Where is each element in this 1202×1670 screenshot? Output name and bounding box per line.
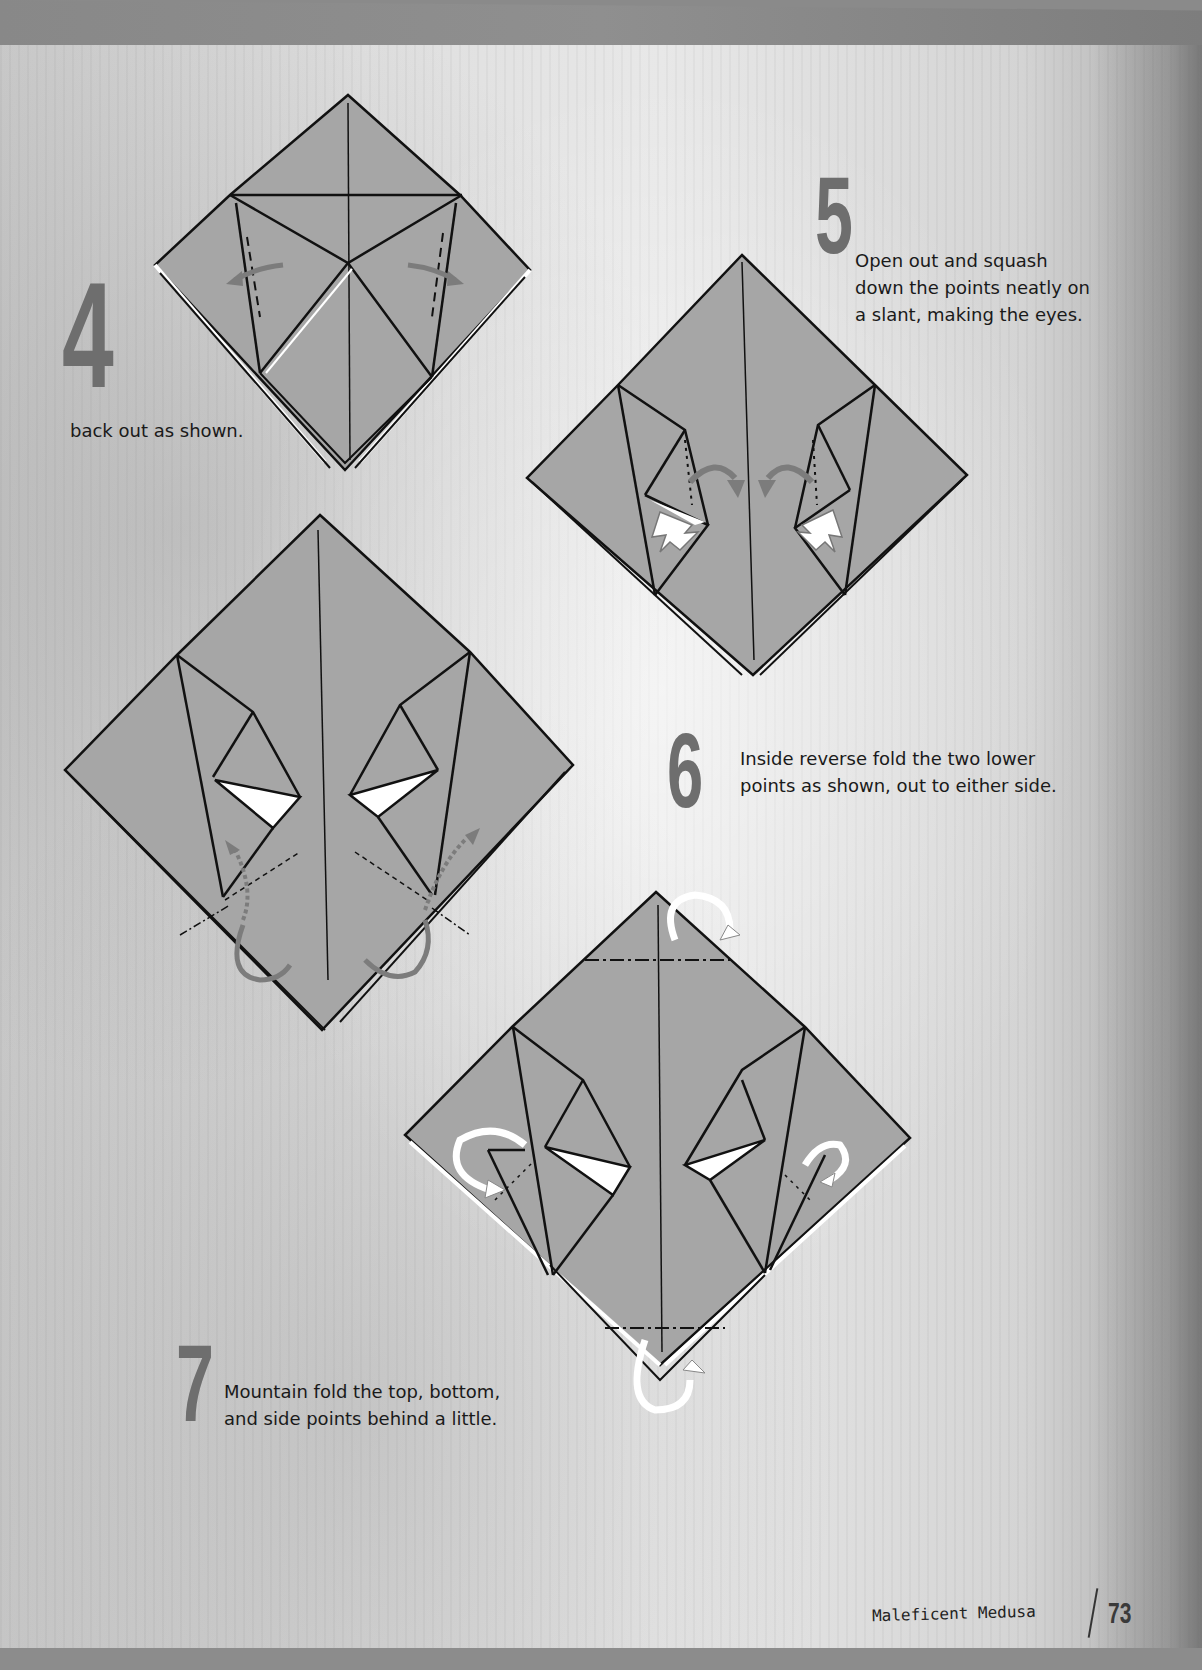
step-7-number: 7 — [176, 1328, 214, 1438]
step-7-diagram — [400, 890, 1100, 1590]
step-4-diagram — [140, 85, 540, 485]
bottom-gray-band — [0, 1648, 1202, 1670]
page-number: 73 — [1108, 1596, 1131, 1630]
step-6-number: 6 — [667, 718, 703, 823]
page-gutter-shadow — [1092, 45, 1202, 1657]
step-4-number: 4 — [62, 260, 114, 410]
step-6-text: Inside reverse fold the two lower points… — [740, 745, 1057, 799]
